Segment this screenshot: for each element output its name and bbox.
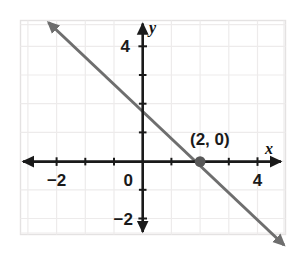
- point-annotation-label: (2, 0): [190, 130, 230, 149]
- y-tick-label-4: 4: [121, 37, 131, 56]
- x-tick-label-neg2: −2: [47, 171, 66, 190]
- coordinate-plane-svg: −2 4 4 −2 0 y x (2, 0): [0, 0, 298, 255]
- coordinate-plane-figure: −2 4 4 −2 0 y x (2, 0): [0, 0, 298, 255]
- point-marker-2-0: [195, 156, 206, 167]
- x-axis-name-label: x: [264, 140, 273, 157]
- x-tick-label-4: 4: [253, 171, 263, 190]
- y-tick-label-neg2: −2: [114, 210, 133, 229]
- origin-label: 0: [124, 171, 133, 190]
- y-axis-name-label: y: [147, 19, 157, 37]
